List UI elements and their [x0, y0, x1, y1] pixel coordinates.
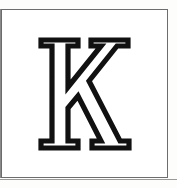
page-edge-bottom [0, 179, 177, 180]
letter-k-path [41, 40, 129, 148]
letter-k-icon: Outlined serif capital letter K [37, 37, 132, 151]
letter-plate: Outlined serif capital letter K K [0, 0, 177, 188]
glyph-container: Outlined serif capital letter K K [1, 10, 167, 177]
